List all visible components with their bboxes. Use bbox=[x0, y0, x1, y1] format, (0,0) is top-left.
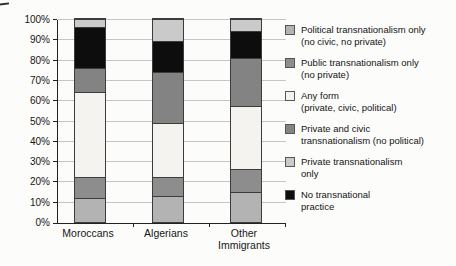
segment-public-transnationalism-only-no-private bbox=[231, 169, 261, 191]
segment-no-transnational-practice bbox=[153, 41, 183, 71]
y-axis-label-70: 70% bbox=[0, 75, 50, 86]
legend-swatch bbox=[285, 91, 295, 101]
legend-swatch bbox=[285, 25, 295, 35]
legend-item-public-transnationalism-only: Public transnationalism only (no private… bbox=[285, 57, 455, 80]
legend-item-private-transnationalism: Private transnationalism only bbox=[285, 156, 455, 179]
segment-public-transnationalism-only-no-private bbox=[75, 177, 105, 197]
y-axis-label-100: 100% bbox=[0, 14, 50, 25]
x-axis-tick-2 bbox=[285, 224, 286, 227]
legend-item-political-transnationalism-only: Political transnationalism only (no civi… bbox=[285, 24, 455, 47]
segment-public-transnationalism-only-no-private bbox=[153, 177, 183, 195]
y-axis-label-80: 80% bbox=[0, 55, 50, 66]
legend-item-private-and-civic: Private and civic transnationalism (no p… bbox=[285, 123, 455, 146]
legend-label: Public transnationalism only (no private… bbox=[301, 57, 419, 80]
legend-item-any-form: Any form (private, civic, political) bbox=[285, 90, 455, 113]
segment-no-transnational-practice bbox=[231, 31, 261, 57]
x-axis-label-other-immigrants: Other Immigrants bbox=[208, 228, 280, 251]
x-axis-tick-0 bbox=[133, 224, 134, 227]
y-axis-label-20: 20% bbox=[0, 176, 50, 187]
legend-label: Private transnationalism only bbox=[301, 156, 402, 179]
y-axis-label-30: 30% bbox=[0, 156, 50, 167]
legend-swatch bbox=[285, 124, 295, 134]
legend-label: Any form (private, civic, political) bbox=[301, 90, 397, 113]
plot-area bbox=[57, 20, 286, 224]
legend-item-no-transnational: No transnational practice bbox=[285, 189, 455, 212]
segment-private-and-civic-transnationalism-no-political bbox=[153, 72, 183, 123]
segment-private-transnationalism-only bbox=[153, 19, 183, 41]
y-axis-label-10: 10% bbox=[0, 197, 50, 208]
y-axis-label-60: 60% bbox=[0, 95, 50, 106]
segment-private-and-civic-transnationalism-no-political bbox=[231, 58, 261, 107]
segment-any-form-private-civic-political bbox=[231, 106, 261, 169]
x-axis-label-moroccans: Moroccans bbox=[52, 228, 124, 240]
segment-political-transnationalism-only-no-civic-no-private bbox=[75, 198, 105, 222]
legend-label: Private and civic transnationalism (no p… bbox=[301, 123, 424, 146]
legend-swatch bbox=[285, 157, 295, 167]
y-axis-label-90: 90% bbox=[0, 34, 50, 45]
legend-label: No transnational practice bbox=[301, 189, 370, 212]
chart-figure: 0%10%20%30%40%50%60%70%80%90%100% Morocc… bbox=[0, 0, 456, 266]
y-axis-label-50: 50% bbox=[0, 116, 50, 127]
legend-label: Political transnationalism only (no civi… bbox=[301, 24, 426, 47]
scan-artifact bbox=[0, 2, 9, 5]
stacked-bar-algerians bbox=[152, 18, 184, 223]
segment-private-and-civic-transnationalism-no-political bbox=[75, 68, 105, 92]
stacked-bar-moroccans bbox=[74, 18, 106, 223]
segment-any-form-private-civic-political bbox=[153, 123, 183, 178]
y-axis-label-40: 40% bbox=[0, 136, 50, 147]
segment-no-transnational-practice bbox=[75, 27, 105, 68]
y-axis-label-0: 0% bbox=[0, 217, 50, 228]
legend-swatch bbox=[285, 190, 295, 200]
segment-any-form-private-civic-political bbox=[75, 92, 105, 177]
segment-political-transnationalism-only-no-civic-no-private bbox=[231, 192, 261, 222]
legend-swatch bbox=[285, 58, 295, 68]
stacked-bar-other-immigrants bbox=[230, 18, 262, 223]
segment-private-transnationalism-only bbox=[231, 19, 261, 31]
x-axis-tick-1 bbox=[209, 224, 210, 227]
segment-private-transnationalism-only bbox=[75, 19, 105, 27]
legend: Political transnationalism only (no civi… bbox=[285, 24, 455, 212]
x-axis-label-algerians: Algerians bbox=[130, 228, 202, 240]
segment-political-transnationalism-only-no-civic-no-private bbox=[153, 196, 183, 222]
